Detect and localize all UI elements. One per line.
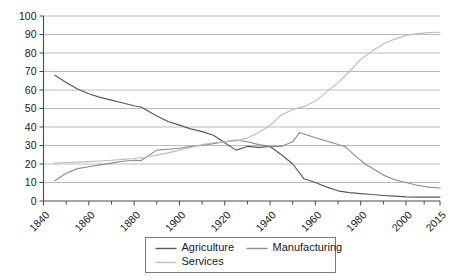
- legend-label-manufacturing: Manufacturing: [273, 241, 343, 253]
- y-tick-label: 10: [25, 176, 37, 188]
- y-tick-label: 0: [31, 195, 37, 207]
- y-tick-label: 50: [25, 102, 37, 114]
- y-tick-label: 70: [25, 65, 37, 77]
- series-line-services: [55, 32, 440, 163]
- x-tick-label: 1860: [72, 208, 97, 233]
- x-tick-label: 1960: [298, 208, 323, 233]
- x-tick-label: 1900: [163, 208, 188, 233]
- y-tick-label: 100: [19, 10, 37, 22]
- y-tick-label: 20: [25, 158, 37, 170]
- legend-label-services: Services: [182, 255, 225, 267]
- x-tick-label: 1920: [208, 208, 233, 233]
- y-tick-label: 80: [25, 47, 37, 59]
- x-tick-label: 1940: [253, 208, 278, 233]
- x-tick-label: 1880: [117, 208, 142, 233]
- y-tick-label: 30: [25, 139, 37, 151]
- line-chart: 0102030405060708090100184018601880190019…: [0, 0, 456, 280]
- x-tick-label: 1980: [344, 208, 369, 233]
- x-tick-label: 2015: [423, 208, 448, 233]
- y-tick-label: 90: [25, 28, 37, 40]
- y-tick-label: 40: [25, 121, 37, 133]
- x-tick-label: 2000: [389, 208, 414, 233]
- legend-label-agriculture: Agriculture: [182, 241, 235, 253]
- chart-canvas: 0102030405060708090100184018601880190019…: [0, 0, 456, 280]
- series-line-agriculture: [55, 75, 440, 197]
- y-tick-label: 60: [25, 84, 37, 96]
- x-tick-label: 1840: [27, 208, 52, 233]
